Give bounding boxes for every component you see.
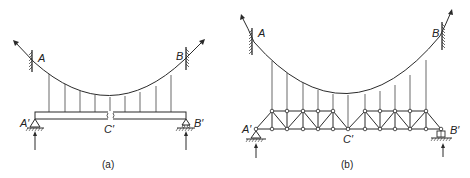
reaction-arrow-a-prime (33, 131, 37, 150)
label-b-prime: B′ (450, 124, 460, 136)
label-b-prime: B′ (194, 117, 204, 129)
stiffening-truss (256, 111, 441, 129)
hangers (272, 60, 426, 129)
caption-a: (a) (102, 159, 114, 170)
caption-b: (b) (341, 159, 353, 170)
label-a: A (37, 52, 45, 64)
roller-support-b-prime (176, 119, 195, 131)
truss-joints (254, 109, 443, 131)
tension-arrow-a (13, 40, 34, 62)
figure-a: A B A′ B′ C′ (a) (13, 39, 205, 170)
label-a: A (257, 27, 265, 39)
anchor-wall-b (186, 47, 189, 70)
stiffening-girder (35, 111, 186, 120)
label-b: B (176, 50, 183, 62)
diagram-canvas: A B A′ B′ C′ (a) (0, 0, 470, 178)
label-a-prime: A′ (241, 123, 252, 135)
suspension-cable (34, 60, 184, 96)
suspension-cable (254, 36, 440, 94)
label-c-prime: C′ (343, 133, 354, 145)
hinge-c-prime (346, 127, 350, 131)
tension-arrow-b (184, 39, 205, 60)
label-b: B (432, 27, 439, 39)
roller-support-b-prime (431, 131, 452, 141)
figure-b: A B A′ B′ C′ (b) (240, 9, 460, 170)
label-c-prime: C′ (104, 123, 115, 135)
anchor-wall-a (29, 50, 32, 72)
hangers (49, 74, 171, 112)
hinge-c-prime (107, 111, 114, 120)
reaction-arrow-b-prime (441, 143, 445, 157)
reaction-arrow-b-prime (184, 131, 188, 150)
reaction-arrow-a-prime (254, 143, 258, 158)
label-a-prime: A′ (19, 117, 30, 129)
